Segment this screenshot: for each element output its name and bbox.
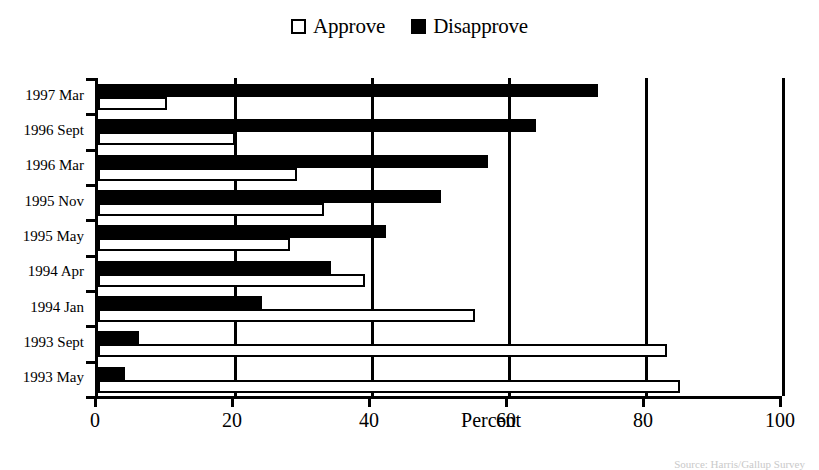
bar-approve — [98, 132, 235, 145]
bar-approve — [98, 168, 297, 181]
x-axis-tick-80 — [642, 396, 645, 407]
source-note: Source: Harris/Gallup Survey — [674, 458, 805, 470]
bar-approve — [98, 274, 365, 287]
x-axis-tick-label-20: 20 — [222, 410, 242, 430]
plot-area — [95, 78, 783, 396]
bar-disapprove — [98, 155, 488, 168]
bar-disapprove — [98, 331, 139, 344]
y-axis-tick — [86, 361, 95, 364]
y-axis-tick — [86, 396, 95, 399]
bar-disapprove — [98, 190, 441, 203]
y-axis-label-1995-may: 1995 May — [0, 229, 84, 244]
y-axis-label-1996-sept: 1996 Sept — [0, 123, 84, 138]
y-axis-tick — [86, 255, 95, 258]
y-axis-label-1994-apr: 1994 Apr — [0, 264, 84, 279]
bar-disapprove — [98, 225, 386, 238]
y-axis-label-1995-nov: 1995 Nov — [0, 194, 84, 209]
bar-disapprove — [98, 261, 331, 274]
y-axis-labels: 1997 Mar1996 Sept1996 Mar1995 Nov1995 Ma… — [0, 0, 84, 466]
approve-swatch — [291, 19, 306, 34]
x-axis-tick-label-80: 80 — [633, 410, 653, 430]
y-axis-tick — [86, 149, 95, 152]
bar-disapprove — [98, 367, 125, 380]
bar-approve — [98, 380, 680, 393]
bar-disapprove — [98, 84, 598, 97]
y-axis-tick — [86, 219, 95, 222]
legend-label-approve: Approve — [313, 16, 385, 37]
legend-item-disapprove: Disapprove — [411, 16, 528, 37]
gridline-100 — [782, 78, 785, 396]
bar-approve — [98, 238, 290, 251]
y-axis-tick — [86, 113, 95, 116]
y-axis-tick — [86, 290, 95, 293]
legend-item-approve: Approve — [291, 16, 385, 37]
x-axis-tick-100 — [779, 396, 782, 407]
y-axis-label-1993-sept: 1993 Sept — [0, 335, 84, 350]
x-axis-tick-label-100: 100 — [765, 410, 795, 430]
x-axis-line — [93, 396, 782, 399]
legend-label-disapprove: Disapprove — [433, 16, 528, 37]
bar-disapprove — [98, 119, 536, 132]
y-axis-tick — [86, 184, 95, 187]
x-axis-tick-label-40: 40 — [359, 410, 379, 430]
bar-approve — [98, 344, 667, 357]
y-axis-tick — [86, 325, 95, 328]
disapprove-swatch — [411, 19, 426, 34]
y-axis-label-1993-may: 1993 May — [0, 370, 84, 385]
bar-approve — [98, 309, 475, 322]
y-axis-label-1994-jan: 1994 Jan — [0, 300, 84, 315]
y-axis-tick — [86, 78, 95, 81]
x-axis-title: Percent — [461, 410, 521, 430]
bar-approve — [98, 97, 167, 110]
y-axis-label-1996-mar: 1996 Mar — [0, 158, 84, 173]
bar-disapprove — [98, 296, 262, 309]
x-axis-tick-40 — [368, 396, 371, 407]
y-axis-label-1997-mar: 1997 Mar — [0, 88, 84, 103]
chart-legend: Approve Disapprove — [0, 16, 819, 37]
bar-approve — [98, 203, 324, 216]
x-axis-tick-label-0: 0 — [90, 410, 100, 430]
x-axis-tick-20 — [231, 396, 234, 407]
x-axis-tick-60 — [505, 396, 508, 407]
